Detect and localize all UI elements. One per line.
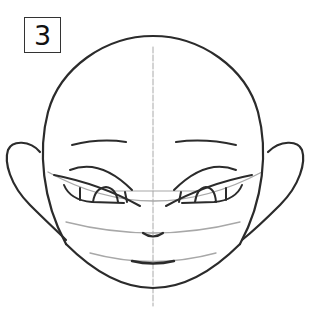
left-eyebrow	[72, 141, 126, 145]
eyebrows	[72, 141, 236, 145]
right-eye-corner-inner	[179, 192, 181, 202]
left-eye-corner-inner	[125, 192, 127, 202]
right-ear	[242, 143, 303, 240]
guide-lines	[48, 47, 262, 306]
right-eyebrow	[176, 141, 236, 145]
face-drawing	[0, 0, 313, 318]
